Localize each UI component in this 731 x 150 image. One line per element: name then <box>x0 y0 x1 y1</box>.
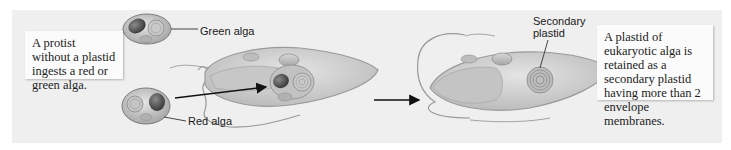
host-cell-with-secondary-plastid <box>418 34 610 122</box>
step2-caption-box: A plastid of eukaryotic alga is retained… <box>597 25 713 100</box>
red-alga-cell <box>122 88 186 124</box>
green-alga-cell <box>123 14 198 44</box>
secondary-plastid-label-line1: Secondary <box>533 15 586 27</box>
secondary-plastid-label-line2: plastid <box>533 27 586 39</box>
step1-caption-box: A protist without a plastid ingests a re… <box>25 31 123 79</box>
secondary-plastid-label: Secondary plastid <box>533 15 586 39</box>
green-alga-label: Green alga <box>200 25 254 37</box>
red-alga-label: Red alga <box>188 115 232 127</box>
